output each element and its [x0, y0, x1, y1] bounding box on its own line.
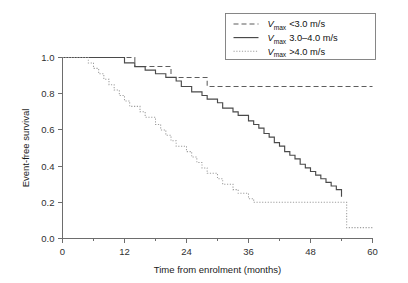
x-tick-label: 36 — [243, 246, 254, 257]
y-tick-label: 0.2 — [41, 197, 54, 208]
x-axis-title: Time from enrolment (months) — [154, 264, 281, 275]
y-axis-title: Event-free survival — [20, 109, 31, 188]
chart-legend: Vmax<3.0 m/sVmax3.0–4.0 m/sVmax>4.0 m/s — [226, 14, 376, 60]
y-axis-tick-labels: 0.00.20.40.60.81.0 — [41, 52, 54, 244]
y-tick-label: 0.4 — [41, 161, 54, 172]
y-tick-label: 0.0 — [41, 233, 54, 244]
x-tick-label: 0 — [60, 246, 65, 257]
x-axis-tick-labels: 01224364860 — [60, 246, 378, 257]
y-tick-label: 0.6 — [41, 124, 54, 135]
y-axis-ticks — [58, 58, 63, 239]
x-tick-label: 48 — [305, 246, 316, 257]
survival-curve-vmax_gt_4 — [63, 58, 373, 228]
chart-svg: 0.00.20.40.60.81.0 01224364860 Event-fre… — [0, 0, 408, 283]
survival-chart-figure: 0.00.20.40.60.81.0 01224364860 Event-fre… — [0, 0, 408, 283]
y-tick-label: 1.0 — [41, 52, 54, 63]
y-tick-label: 0.8 — [41, 88, 54, 99]
x-tick-label: 24 — [181, 246, 192, 257]
survival-curves — [63, 58, 373, 228]
x-tick-label: 60 — [367, 246, 378, 257]
x-tick-label: 12 — [119, 246, 130, 257]
